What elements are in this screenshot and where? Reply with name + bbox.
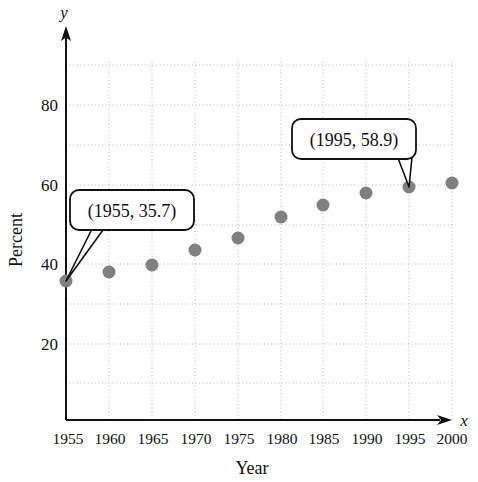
- y-axis-variable-label: y: [58, 3, 68, 22]
- x-tick-label-1985: 1985: [309, 430, 340, 447]
- x-axis-variable-label: x: [459, 411, 468, 430]
- x-tick-label-1970: 1970: [181, 430, 212, 447]
- x-tick-label-1965: 1965: [138, 430, 169, 447]
- x-tick-label-1960: 1960: [95, 430, 126, 447]
- x-tick-label-2000: 2000: [437, 430, 468, 447]
- grid-lines: [66, 62, 452, 420]
- scatter-plot: y x 80 60 40 20 1955 1960 1965 1970 1975…: [0, 0, 478, 482]
- callout-tail-1955: [66, 229, 103, 281]
- x-tick-label-1995: 1995: [395, 430, 426, 447]
- y-tick-label-40: 40: [41, 255, 58, 274]
- callout-label-1995: (1995, 58.9): [310, 130, 399, 151]
- y-tick-labels: 80 60 40 20: [41, 96, 58, 354]
- annotation-callout-1955[interactable]: (1955, 35.7): [66, 190, 194, 281]
- y-tick-label-80: 80: [41, 96, 58, 115]
- annotation-callout-1995[interactable]: (1995, 58.9): [292, 119, 416, 187]
- x-tick-label-1990: 1990: [352, 430, 383, 447]
- x-tick-label-1975: 1975: [224, 430, 255, 447]
- data-point-1970[interactable]: [189, 244, 202, 257]
- data-point-1990[interactable]: [360, 187, 373, 200]
- data-point-2000[interactable]: [446, 177, 459, 190]
- x-tick-label-1980: 1980: [267, 430, 298, 447]
- y-axis-title: Percent: [6, 213, 26, 267]
- y-tick-label-20: 20: [41, 335, 58, 354]
- x-tick-label-1955: 1955: [53, 430, 84, 447]
- data-point-1960[interactable]: [103, 266, 116, 279]
- x-axis-title: Year: [235, 458, 268, 478]
- data-point-1975[interactable]: [232, 232, 245, 245]
- data-point-1985[interactable]: [317, 199, 330, 212]
- x-tick-labels: 1955 1960 1965 1970 1975 1980 1985 1990 …: [53, 430, 468, 447]
- y-tick-label-60: 60: [41, 176, 58, 195]
- data-point-1980[interactable]: [275, 211, 288, 224]
- data-point-1965[interactable]: [146, 259, 159, 272]
- callout-label-1955: (1955, 35.7): [88, 201, 177, 222]
- chart-figure: y x 80 60 40 20 1955 1960 1965 1970 1975…: [0, 0, 478, 482]
